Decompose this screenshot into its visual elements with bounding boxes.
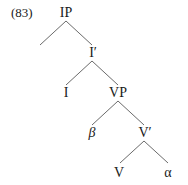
node-v: V [114, 166, 124, 180]
node-ip: IP [60, 6, 72, 20]
tree-edges [0, 0, 188, 185]
edge-vp-beta [92, 101, 118, 125]
node-i: I [64, 86, 69, 100]
edge-ibar-vp [92, 61, 118, 85]
edge-vbar-alpha [144, 141, 168, 163]
node-alpha: α [164, 166, 171, 180]
edge-vbar-v [120, 141, 144, 163]
edge-ip-left [40, 21, 66, 45]
node-i-bar: I′ [89, 46, 97, 60]
example-number: (83) [11, 6, 33, 20]
node-vp: VP [109, 86, 127, 100]
node-beta: β [89, 126, 96, 140]
edge-vp-vbar [118, 101, 144, 125]
node-v-bar: V′ [138, 126, 151, 140]
edge-ip-ibar [66, 21, 92, 45]
edge-ibar-i [66, 61, 92, 85]
syntax-tree: (83) IP I′ I VP β V′ V α [0, 0, 188, 185]
